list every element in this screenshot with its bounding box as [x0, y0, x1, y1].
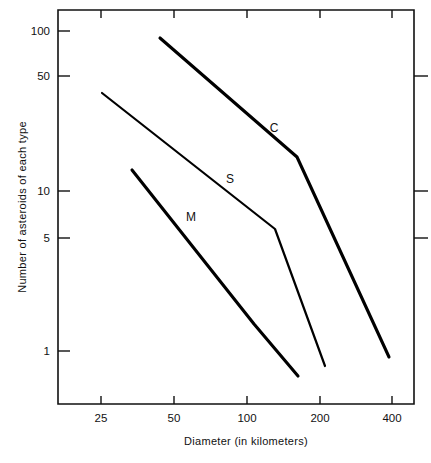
x-tick-label-200: 200 — [310, 412, 329, 424]
x-tick-label-50: 50 — [168, 412, 181, 424]
x-axis-title: Diameter (in kilometers) — [184, 435, 308, 447]
series-line-s — [102, 93, 325, 366]
x-axis-top-ticks — [101, 10, 392, 18]
x-tick-label-100: 100 — [237, 412, 256, 424]
y-axis-title: Number of asteroids of each type — [16, 121, 28, 293]
asteroid-size-distribution-chart: 100 50 10 5 1 25 50 100 200 400 Diameter… — [0, 0, 431, 463]
plot-border — [58, 10, 414, 404]
y-tick-label-100: 100 — [31, 25, 50, 37]
y-tick-label-5: 5 — [44, 232, 50, 244]
y-tick-label-10: 10 — [37, 185, 50, 197]
x-axis-ticks — [101, 396, 392, 404]
x-tick-label-400: 400 — [382, 412, 401, 424]
y-axis-right-ticks — [414, 76, 428, 238]
series-label-m: M — [186, 210, 196, 224]
plot-frame — [58, 10, 414, 404]
series-line-m — [132, 170, 298, 376]
series-label-s: S — [226, 172, 234, 186]
y-axis-ticks — [58, 31, 70, 351]
series-label-c: C — [270, 121, 279, 135]
x-tick-label-25: 25 — [95, 412, 108, 424]
chart-canvas: 100 50 10 5 1 25 50 100 200 400 Diameter… — [0, 0, 431, 463]
series-line-c — [160, 38, 389, 357]
y-tick-label-50: 50 — [37, 70, 50, 82]
y-tick-label-1: 1 — [44, 345, 50, 357]
